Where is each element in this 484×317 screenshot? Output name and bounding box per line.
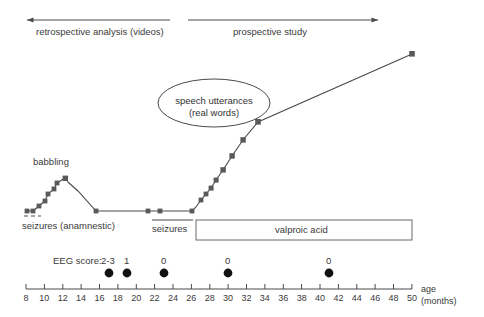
speech-utterances-line1: speech utterances <box>159 95 269 107</box>
marker <box>31 209 36 214</box>
eeg-dot <box>123 269 132 278</box>
eeg-score-value-2: 0 <box>161 256 166 266</box>
marker <box>209 186 214 191</box>
marker <box>146 209 151 214</box>
axis-label-months: (months) <box>421 297 457 306</box>
x-tick-label: 26 <box>186 294 197 303</box>
eeg-score-value-4: 0 <box>326 256 331 266</box>
development-curve <box>25 51 415 213</box>
curve-markers <box>25 51 415 213</box>
x-tick-label: 14 <box>76 294 87 303</box>
x-tick-label: 12 <box>57 294 68 303</box>
marker <box>204 192 209 197</box>
retrospective-phase-label: retrospective analysis (videos) <box>36 27 164 37</box>
x-axis-ticks <box>26 284 412 289</box>
x-tick-label: 38 <box>296 294 307 303</box>
eeg-score-label: EEG score: <box>53 256 102 266</box>
seizures-anamnestic-label: seizures (anamnestic) <box>22 221 115 231</box>
x-tick-label: 50 <box>406 294 417 303</box>
eeg-score-value-3: 0 <box>225 256 230 266</box>
marker <box>94 209 99 214</box>
x-tick-label: 20 <box>131 294 142 303</box>
figure-canvas: retrospective analysis (videos) prospect… <box>0 0 484 317</box>
retrospective-arrow-head <box>27 17 34 22</box>
eeg-dot <box>160 269 169 278</box>
speech-utterances-line2: (real words) <box>159 107 269 119</box>
marker <box>158 209 163 214</box>
marker <box>43 199 48 204</box>
babbling-label: babbling <box>33 157 69 167</box>
prospective-arrow-head <box>372 17 379 22</box>
marker <box>46 192 51 197</box>
x-tick-label: 10 <box>39 294 50 303</box>
curve-line <box>27 54 412 211</box>
phase-arrows <box>27 17 378 22</box>
x-tick-label: 8 <box>21 294 32 303</box>
marker <box>190 209 195 214</box>
valproic-acid-label: valproic acid <box>275 225 328 235</box>
eeg-dot <box>325 269 334 278</box>
x-tick-label: 24 <box>168 294 179 303</box>
seizures-label: seizures <box>152 224 187 234</box>
x-tick-label: 28 <box>204 294 215 303</box>
x-tick-label: 36 <box>278 294 289 303</box>
x-tick-label: 34 <box>259 294 270 303</box>
eeg-dot <box>224 269 233 278</box>
eeg-score-dots <box>105 269 334 278</box>
marker <box>409 51 415 57</box>
marker <box>220 167 225 172</box>
speech-utterances-bubble: speech utterances (real words) <box>159 95 269 118</box>
marker <box>37 204 42 209</box>
marker <box>55 181 60 186</box>
x-tick-label: 22 <box>149 294 160 303</box>
eeg-dot <box>105 269 114 278</box>
eeg-score-value-0: 2-3 <box>101 256 115 266</box>
x-tick-label: 30 <box>223 294 234 303</box>
eeg-score-value-1: 1 <box>124 256 129 266</box>
marker <box>25 209 30 214</box>
x-tick-label: 16 <box>94 294 105 303</box>
prospective-phase-label: prospective study <box>233 27 307 37</box>
marker <box>240 137 245 142</box>
marker <box>199 198 204 203</box>
axis-label-age: age <box>421 285 436 294</box>
x-tick-label: 46 <box>370 294 381 303</box>
marker <box>229 153 234 158</box>
marker <box>52 187 57 192</box>
x-tick-label: 42 <box>333 294 344 303</box>
timeline-chart-svg <box>0 0 484 317</box>
marker <box>63 176 68 181</box>
x-tick-label: 32 <box>241 294 252 303</box>
x-tick-label: 40 <box>315 294 326 303</box>
marker <box>214 178 219 183</box>
x-tick-label: 18 <box>112 294 123 303</box>
x-tick-label: 44 <box>351 294 362 303</box>
x-tick-label: 48 <box>388 294 399 303</box>
x-axis <box>26 284 412 289</box>
marker <box>255 119 261 125</box>
